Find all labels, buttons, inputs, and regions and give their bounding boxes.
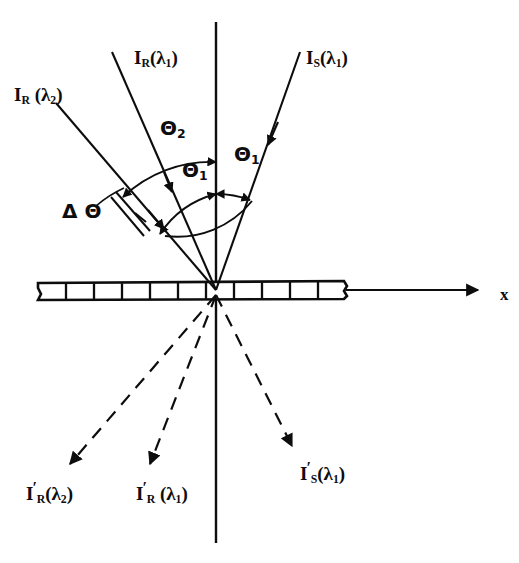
delta-theta-marker (96, 188, 150, 236)
angle-label-theta2: Θ2 (160, 118, 186, 141)
diagram-svg (0, 0, 519, 563)
axis-label-x-text: x (500, 285, 509, 304)
incident-ray-IR-lambda2 (56, 103, 216, 290)
ray-label-IS-prime-lambda1-text: I′S(λ1) (300, 463, 345, 484)
angle-label-delta-theta: Δ Θ (62, 201, 101, 221)
diffracted-ray-IR-prime-lambda2 (70, 295, 216, 464)
angle-label-theta1-left-text: Θ1 (182, 158, 208, 182)
angle-arc-theta1-right (216, 194, 250, 200)
ray-label-IR-lambda1: IR(λ1) (134, 48, 178, 70)
diffracted-ray-IS-prime-lambda1 (216, 295, 292, 446)
angle-label-theta2-text: Θ2 (160, 116, 186, 140)
ray-label-IR-lambda2-text: IR (λ2) (14, 84, 63, 105)
ray-label-IR-prime-lambda2-text: I′R(λ2) (26, 483, 73, 504)
grating-plate-outline (38, 281, 347, 300)
diffracted-ray-lines (70, 295, 292, 464)
incident-ray-lines (56, 52, 300, 290)
angle-arc-theta1-right-ext (165, 201, 252, 237)
angle-label-theta1-left: Θ1 (182, 160, 208, 183)
ray-label-IR-lambda2: IR (λ2) (14, 85, 63, 107)
ray-label-IR-prime-lambda2: I′R(λ2) (26, 480, 73, 506)
angle-label-theta1-right: Θ1 (234, 144, 260, 167)
angle-label-theta1-right-text: Θ1 (234, 142, 260, 166)
ray-label-IS-lambda1: IS(λ1) (306, 48, 348, 70)
ray-label-IR-lambda1-text: IR(λ1) (134, 47, 178, 68)
incident-ray-IS-lambda1 (216, 52, 300, 290)
ray-label-IS-prime-lambda1: I′S(λ1) (300, 460, 345, 486)
angle-label-delta-theta-text: Δ Θ (62, 199, 101, 223)
ray-label-IS-lambda1-text: IS(λ1) (306, 47, 348, 68)
diffracted-ray-IR-prime-lambda1 (150, 295, 216, 464)
axis-label-x: x (500, 286, 509, 303)
ray-label-IR-prime-lambda1-text: I′R (λ1) (136, 483, 188, 504)
ray-label-IR-prime-lambda1: I′R (λ1) (136, 480, 188, 506)
figure-canvas: IR (λ2) IR(λ1) IS(λ1) Θ2 Θ1 Θ1 Δ Θ I′R(λ… (0, 0, 519, 563)
